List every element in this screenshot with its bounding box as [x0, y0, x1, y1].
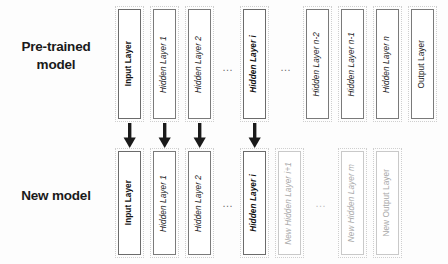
- ellipsis-top-left: …: [222, 62, 234, 73]
- layer-label-new-hidden-m: New Hidden Layer m: [348, 164, 356, 242]
- layer-box-pretrained-hidden-n[interactable]: Hidden Layer n: [376, 9, 399, 119]
- row-label-pretrained-line1: Pre-trained: [0, 38, 112, 56]
- layer-label-new-hidden-2: Hidden Layer 2: [195, 175, 203, 232]
- layer-label-new-hidden-i-plus-1: New Hidden Layer i+1: [285, 162, 293, 245]
- row-label-new-model: New model: [0, 187, 112, 205]
- layer-label-pretrained-hidden-n: Hidden Layer n: [383, 36, 391, 93]
- layer-box-new-hidden-2[interactable]: Hidden Layer 2: [188, 151, 211, 255]
- layer-label-new-hidden-1: Hidden Layer 1: [160, 175, 168, 232]
- layer-label-pretrained-output-layer: Output Layer: [418, 40, 426, 89]
- ellipsis-bottom-left: …: [222, 198, 234, 209]
- layer-box-new-hidden-m[interactable]: New Hidden Layer m: [341, 151, 364, 255]
- transfer-arrow-input-layer: [120, 123, 140, 149]
- layer-box-new-output-layer[interactable]: New Output Layer: [376, 151, 399, 255]
- layer-label-pretrained-hidden-n-minus-2: Hidden Layer n-2: [313, 32, 321, 96]
- layer-label-new-output-layer: New Output Layer: [383, 169, 391, 237]
- layer-label-new-hidden-i: Hidden Layer i: [250, 174, 258, 232]
- layer-box-new-hidden-i-plus-1[interactable]: New Hidden Layer i+1: [278, 151, 301, 255]
- transfer-arrow-hidden-1: [155, 123, 175, 149]
- row-label-pretrained-model: Pre-trained model: [0, 38, 112, 74]
- transfer-arrow-hidden-i: [245, 123, 265, 149]
- layer-label-new-input-layer: Input Layer: [125, 180, 133, 225]
- layer-box-pretrained-hidden-n-minus-2[interactable]: Hidden Layer n-2: [306, 9, 329, 119]
- layer-label-pretrained-hidden-2: Hidden Layer 2: [195, 36, 203, 93]
- layer-box-new-input-layer[interactable]: Input Layer: [118, 151, 141, 255]
- row-label-pretrained-line2: model: [0, 56, 112, 74]
- layer-box-pretrained-hidden-i[interactable]: Hidden Layer i: [243, 9, 266, 119]
- diagram-canvas: Pre-trained model New model Input Layer …: [0, 0, 448, 264]
- layer-label-pretrained-input-layer: Input Layer: [125, 41, 133, 86]
- layer-box-pretrained-output-layer[interactable]: Output Layer: [411, 9, 434, 119]
- layer-box-new-hidden-i[interactable]: Hidden Layer i: [243, 151, 266, 255]
- ellipsis-bottom-right: …: [315, 198, 327, 209]
- layer-label-pretrained-hidden-n-minus-1: Hidden Layer n-1: [348, 32, 356, 96]
- layer-box-pretrained-input-layer[interactable]: Input Layer: [118, 9, 141, 119]
- transfer-arrow-hidden-2: [190, 123, 210, 149]
- layer-box-pretrained-hidden-2[interactable]: Hidden Layer 2: [188, 9, 211, 119]
- layer-label-pretrained-hidden-i: Hidden Layer i: [250, 35, 258, 93]
- layer-box-new-hidden-1[interactable]: Hidden Layer 1: [153, 151, 176, 255]
- ellipsis-top-right: …: [280, 62, 292, 73]
- layer-box-pretrained-hidden-n-minus-1[interactable]: Hidden Layer n-1: [341, 9, 364, 119]
- row-label-new-line1: New model: [0, 187, 112, 205]
- layer-box-pretrained-hidden-1[interactable]: Hidden Layer 1: [153, 9, 176, 119]
- layer-label-pretrained-hidden-1: Hidden Layer 1: [160, 36, 168, 93]
